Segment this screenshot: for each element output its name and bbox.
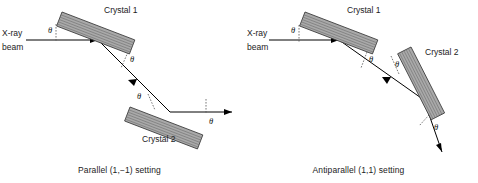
beam-label-line2-parallel: beam xyxy=(2,42,23,52)
crystal-2-label-antiparallel: Crystal 2 xyxy=(425,47,459,57)
parallel-diagram: X-ray beam Crystal 1 Crystal 2 θ θ θ θ xyxy=(0,0,239,183)
antiparallel-diagram: X-ray beam Crystal 1 Crystal 2 θ θ θ θ xyxy=(239,0,478,183)
panel-antiparallel-setting: X-ray beam Crystal 1 Crystal 2 θ θ θ θ A… xyxy=(239,0,478,183)
theta-reflected-crystal1-antiparallel: θ xyxy=(369,54,373,64)
guide-theta4-antiparallel xyxy=(419,115,429,126)
caption-antiparallel: Antiparallel (1,1) setting xyxy=(239,165,478,175)
crystal-1-slab-antiparallel xyxy=(300,12,378,54)
theta-reflected-crystal2-parallel: θ xyxy=(209,116,213,126)
beam-label-line1-antiparallel: X-ray xyxy=(247,28,268,38)
theta-reflected-crystal2-antiparallel: θ xyxy=(434,122,438,132)
theta-incident-crystal2-antiparallel: θ xyxy=(395,59,399,69)
diffracted-beam-2-parallel xyxy=(170,109,232,115)
incident-beam-antiparallel xyxy=(269,37,339,43)
xray-crystal-settings-figure: X-ray beam Crystal 1 Crystal 2 θ θ θ θ P… xyxy=(0,0,478,183)
theta-reflected-crystal1-parallel: θ xyxy=(130,54,134,64)
beam-label-line2-antiparallel: beam xyxy=(247,42,268,52)
theta-incident-crystal2-parallel: θ xyxy=(137,91,141,101)
crystal-2-label-parallel: Crystal 2 xyxy=(142,134,176,144)
panel-parallel-setting: X-ray beam Crystal 1 Crystal 2 θ θ θ θ P… xyxy=(0,0,239,183)
crystal-1-slab-parallel xyxy=(57,12,135,54)
guide-theta2-antiparallel xyxy=(361,52,367,68)
diffracted-beam-1-parallel xyxy=(98,40,170,112)
beam-label-line1-parallel: X-ray xyxy=(2,28,23,38)
crystal-2-slab-antiparallel xyxy=(398,47,445,120)
theta-incident-crystal1-antiparallel: θ xyxy=(291,25,295,35)
crystal-1-label-antiparallel: Crystal 1 xyxy=(347,5,381,15)
caption-parallel: Parallel (1,−1) setting xyxy=(0,165,239,175)
guide-theta2-parallel xyxy=(121,52,128,68)
crystal-1-label-parallel: Crystal 1 xyxy=(104,5,138,15)
theta-incident-crystal1-parallel: θ xyxy=(48,25,52,35)
